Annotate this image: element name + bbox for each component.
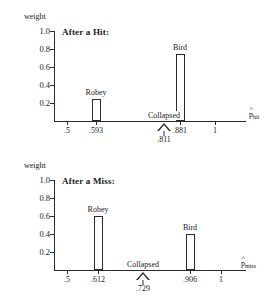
y-tick-group: 1.0 xyxy=(0,176,50,185)
y-tick-mark xyxy=(50,252,54,253)
y-tick-mark xyxy=(50,67,54,68)
collapsed-value: .811 xyxy=(157,135,171,144)
y-tick-group: 0.6 xyxy=(0,63,50,72)
x-tick-label: .593 xyxy=(89,126,103,135)
y-tick-label: 0.4 xyxy=(24,81,50,90)
y-tick-group: 0.2 xyxy=(0,99,50,108)
y-tick-group: 0.8 xyxy=(0,45,50,54)
x-tick-mark xyxy=(215,121,216,125)
hat-accent-icon: ^ xyxy=(242,255,245,262)
x-tick-label: .612 xyxy=(91,275,105,284)
collapsed-label: Collapsed xyxy=(126,260,160,269)
collapsed-value: .729 xyxy=(136,284,150,293)
x-axis-title: ^phit xyxy=(249,110,259,120)
y-tick-label: 0.6 xyxy=(24,63,50,72)
bar-label-bird: Bird xyxy=(173,43,187,52)
y-tick-mark xyxy=(50,103,54,104)
y-tick-label: 0.2 xyxy=(24,248,50,257)
y-tick-label: 0.6 xyxy=(24,212,50,221)
figure-root: weight After a Hit: 1.0 0.8 0.6 0.4 0.2 … xyxy=(0,0,278,297)
x-axis-line xyxy=(54,270,246,271)
x-tick-label: .906 xyxy=(183,275,197,284)
chart-panel-after-a-hit: weight After a Hit: 1.0 0.8 0.6 0.4 0.2 … xyxy=(0,0,278,148)
y-tick-label: 1.0 xyxy=(24,176,50,185)
y-tick-group: 0.4 xyxy=(0,230,50,239)
y-tick-group: 0.6 xyxy=(0,212,50,221)
y-axis-title: weight xyxy=(24,12,46,21)
y-tick-mark xyxy=(50,198,54,199)
y-tick-label: 0.8 xyxy=(24,45,50,54)
x-tick-mark xyxy=(67,270,68,274)
x-tick-mark xyxy=(190,270,191,274)
x-tick-label: .881 xyxy=(173,126,187,135)
y-tick-mark xyxy=(50,216,54,217)
chart-title: After a Miss: xyxy=(62,176,115,186)
y-axis-line xyxy=(54,180,55,271)
y-tick-mark xyxy=(50,49,54,50)
collapsed-label: Collapsed xyxy=(147,111,181,120)
x-tick-label: 1 xyxy=(213,126,217,135)
bar-label-robey: Robey xyxy=(88,205,109,214)
x-axis-line xyxy=(54,121,246,122)
collapsed-triangle-icon[interactable] xyxy=(136,272,150,280)
y-tick-mark xyxy=(50,85,54,86)
x-tick-label: 1 xyxy=(219,275,223,284)
y-tick-group: 1.0 xyxy=(0,27,50,36)
triangle-inner-fill xyxy=(138,274,148,280)
hat-accent-icon: ^ xyxy=(250,106,253,113)
bar-label-bird: Bird xyxy=(183,223,197,232)
bar-robey[interactable] xyxy=(94,216,103,270)
x-tick-mark xyxy=(221,270,222,274)
y-tick-label: 0.2 xyxy=(24,99,50,108)
x-tick-mark xyxy=(98,270,99,274)
y-tick-mark xyxy=(50,180,54,181)
x-axis-title-subscript: miss xyxy=(245,263,256,269)
y-tick-label: 1.0 xyxy=(24,27,50,36)
x-axis-title: ^pmiss xyxy=(241,259,256,269)
bar-bird[interactable] xyxy=(186,234,195,270)
x-tick-label: .5 xyxy=(64,126,70,135)
y-tick-group: 0.2 xyxy=(0,248,50,257)
x-axis-title-subscript: hit xyxy=(253,114,259,120)
x-tick-mark xyxy=(180,121,181,125)
y-axis-title: weight xyxy=(24,161,46,170)
triangle-inner-fill xyxy=(159,125,169,131)
bar-label-robey: Robey xyxy=(86,88,107,97)
y-tick-group: 0.4 xyxy=(0,81,50,90)
chart-panel-after-a-miss: weight After a Miss: 1.0 0.8 0.6 0.4 0.2… xyxy=(0,149,278,297)
y-tick-label: 0.4 xyxy=(24,230,50,239)
collapsed-triangle-icon[interactable] xyxy=(157,123,171,131)
y-axis-line xyxy=(54,31,55,122)
x-tick-label: .5 xyxy=(64,275,70,284)
y-tick-label: 0.8 xyxy=(24,194,50,203)
y-tick-group: 0.8 xyxy=(0,194,50,203)
bar-robey[interactable] xyxy=(92,99,101,122)
x-tick-mark xyxy=(96,121,97,125)
chart-title: After a Hit: xyxy=(62,27,109,37)
x-tick-mark xyxy=(67,121,68,125)
y-tick-mark xyxy=(50,234,54,235)
y-tick-mark xyxy=(50,31,54,32)
